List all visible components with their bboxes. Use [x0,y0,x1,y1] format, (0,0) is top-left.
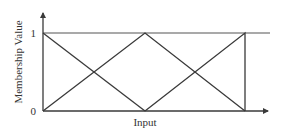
x-axis-label: Input [133,116,156,128]
membership-chart: 1 0 Input Membership Value [0,0,284,135]
mf-middle-triangle [43,33,245,111]
y-tick-one: 1 [31,27,37,39]
y-axis-label: Membership Value [12,20,24,103]
y-tick-zero: 0 [31,105,37,117]
